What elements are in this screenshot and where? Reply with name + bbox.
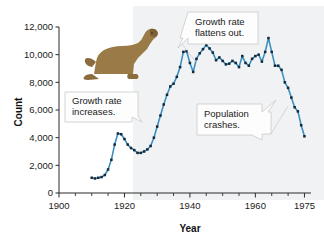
data-point-marker [192, 71, 195, 74]
population-line-chart: 02,0004,0006,0008,00010,00012,000 190019… [0, 0, 324, 243]
data-point-marker [94, 177, 97, 180]
x-axis-title: Year [179, 223, 200, 234]
data-point-marker [290, 96, 293, 99]
figure-container: 02,0004,0006,0008,00010,00012,000 190019… [0, 0, 324, 243]
data-point-marker [130, 147, 133, 150]
data-point-marker [110, 159, 113, 162]
data-point-marker [126, 143, 129, 146]
data-point-marker [248, 64, 251, 67]
callout-increases-line1: Growth rate [72, 95, 122, 106]
callout-crashes-line2: crashes. [204, 119, 240, 130]
data-point-marker [212, 51, 215, 54]
data-point-marker [166, 94, 169, 97]
data-point-marker [287, 87, 290, 90]
data-point-marker [100, 176, 103, 179]
data-point-marker [251, 58, 254, 61]
data-point-marker [297, 110, 300, 113]
data-point-marker [254, 55, 256, 58]
data-point-marker [159, 114, 162, 117]
data-point-marker [228, 62, 231, 65]
y-tick-label: 8,000 [29, 77, 53, 88]
data-point-marker [208, 47, 211, 50]
data-point-marker [136, 152, 139, 155]
data-point-marker [225, 63, 228, 66]
data-point-marker [113, 143, 116, 146]
data-point-marker [195, 58, 198, 61]
y-tick-label: 6,000 [29, 104, 53, 115]
data-point-marker [264, 51, 267, 54]
data-point-marker [179, 66, 182, 69]
x-tick-label: 1975 [294, 200, 315, 211]
x-tick-label: 1960 [245, 200, 266, 211]
data-point-marker [182, 51, 185, 54]
data-point-marker [176, 76, 179, 79]
data-point-marker [172, 82, 175, 85]
y-axis-title: Count [13, 97, 24, 127]
y-tick-label: 4,000 [29, 132, 53, 143]
x-tick-label: 1900 [48, 200, 69, 211]
data-point-marker [90, 177, 93, 180]
data-point-marker [300, 124, 303, 127]
data-point-marker [257, 53, 260, 56]
data-point-marker [303, 135, 306, 138]
callout-increases-line2: increases. [72, 106, 115, 117]
y-tick-label: 2,000 [29, 160, 53, 171]
callout-growth-rate-increases: Growth rate increases. [65, 92, 142, 122]
data-point-marker [156, 125, 159, 128]
data-point-marker [293, 106, 296, 109]
data-point-marker [123, 138, 126, 141]
data-point-marker [189, 62, 192, 65]
callout-flattens-line2: flattens out. [195, 27, 244, 38]
data-point-marker [221, 60, 224, 63]
data-point-marker [153, 136, 156, 139]
data-point-marker [104, 174, 107, 177]
data-point-marker [277, 64, 280, 67]
data-point-marker [146, 148, 149, 151]
data-point-marker [261, 60, 264, 63]
data-point-marker [202, 48, 205, 51]
data-point-marker [270, 51, 273, 54]
data-point-marker [244, 62, 247, 65]
data-point-marker [107, 168, 110, 171]
y-tick-label: 0 [48, 187, 53, 198]
data-point-marker [238, 66, 241, 69]
data-point-marker [218, 56, 221, 59]
callout-flattens-line1: Growth rate [195, 16, 245, 27]
data-point-marker [215, 59, 218, 62]
data-point-marker [234, 62, 237, 65]
data-point-marker [198, 52, 201, 55]
data-point-marker [120, 133, 123, 136]
y-tick-label: 10,000 [24, 49, 53, 60]
data-point-marker [140, 152, 143, 155]
data-point-marker [169, 85, 172, 88]
x-tick-label: 1940 [179, 200, 200, 211]
data-point-marker [280, 69, 283, 72]
callout-crashes-line1: Population [204, 108, 249, 119]
data-point-marker [241, 55, 244, 58]
data-point-marker [143, 150, 146, 153]
x-tick-label: 1920 [114, 200, 135, 211]
data-point-marker [117, 132, 120, 135]
data-point-marker [274, 64, 277, 67]
data-point-marker [267, 37, 270, 40]
data-point-marker [284, 81, 287, 84]
y-tick-label: 12,000 [24, 21, 53, 32]
data-point-marker [97, 177, 100, 180]
data-point-marker [149, 145, 152, 148]
data-point-marker [162, 103, 165, 106]
data-point-marker [231, 60, 234, 63]
data-point-marker [133, 149, 136, 152]
